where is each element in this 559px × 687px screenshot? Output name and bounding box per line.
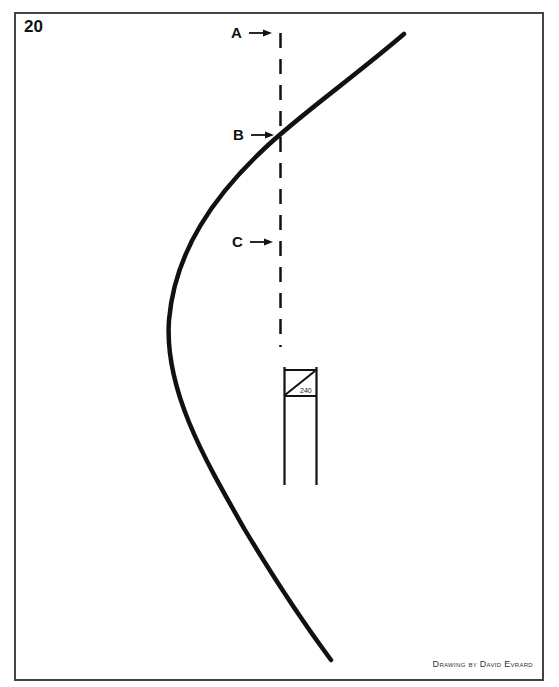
marker-label-b: B	[233, 126, 244, 143]
road-diagram	[0, 0, 559, 687]
arrow-b-icon	[251, 132, 274, 139]
arrow-a-icon	[249, 30, 272, 37]
drawing-credit: Drawing by David Evrard	[433, 659, 533, 669]
marker-label-c: C	[232, 233, 243, 250]
marker-label-a: A	[231, 24, 242, 41]
arrow-c-icon	[250, 239, 273, 246]
curved-road-line	[169, 34, 404, 660]
signpost	[284, 367, 317, 485]
